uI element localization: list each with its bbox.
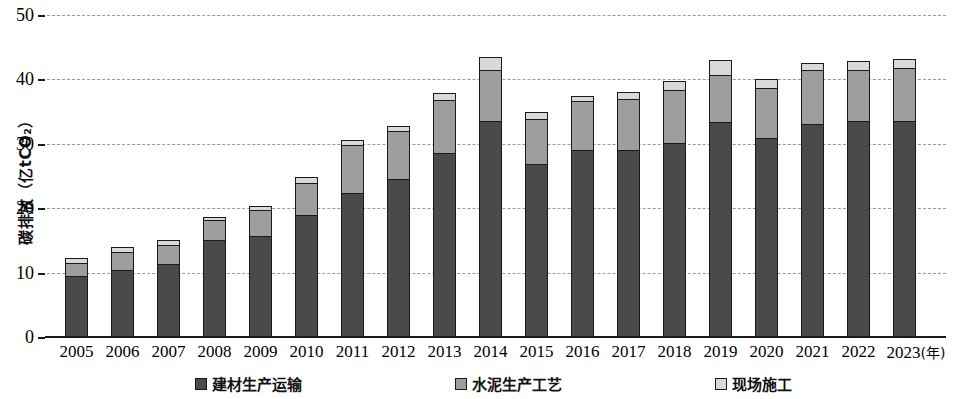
legend-item-2[interactable]: 水泥生产工艺 [455, 373, 562, 394]
bar-segment [249, 210, 272, 236]
bar-segment [341, 193, 364, 337]
bar-segment [801, 63, 824, 71]
y-tick-label: 30 [0, 135, 34, 153]
bar-segment [295, 215, 318, 337]
legend-swatch-icon [455, 378, 467, 390]
plot-area [47, 15, 946, 337]
bar-segment [755, 79, 778, 88]
stacked-bar-chart: 碳排放（亿tCO₂） 01020304050 20052006200720082… [0, 0, 960, 399]
bar-2022[interactable] [847, 61, 870, 337]
x-tick-label-2023: 2023(年) [887, 342, 943, 363]
bar-segment [479, 70, 502, 121]
bar-2015[interactable] [525, 112, 548, 337]
bar-segment [203, 240, 226, 337]
bar-2017[interactable] [617, 92, 640, 337]
bar-2023[interactable] [893, 59, 916, 337]
bar-segment [525, 119, 548, 164]
bar-segment [755, 88, 778, 138]
bar-segment [617, 99, 640, 151]
bar-segment [663, 81, 686, 89]
bar-segment [847, 70, 870, 122]
bar-segment [617, 150, 640, 337]
bar-segment [65, 263, 88, 276]
bar-segment [387, 179, 410, 337]
bar-2021[interactable] [801, 63, 824, 337]
bar-segment [801, 70, 824, 123]
legend-label: 建材生产运输 [212, 373, 302, 394]
bar-segment [65, 276, 88, 337]
bar-segment [433, 93, 456, 100]
bar-segment [663, 143, 686, 337]
bar-segment [479, 57, 502, 70]
bar-2013[interactable] [433, 93, 456, 337]
bar-segment [893, 121, 916, 337]
chart-legend: 建材生产运输水泥生产工艺现场施工 [0, 373, 960, 399]
bar-2006[interactable] [111, 247, 134, 337]
bar-segment [709, 122, 732, 337]
legend-swatch-icon [195, 378, 207, 390]
bar-segment [203, 220, 226, 240]
bar-segment [157, 264, 180, 337]
bar-2018[interactable] [663, 81, 686, 337]
bar-segment [755, 138, 778, 337]
bar-segment [433, 100, 456, 153]
bar-segment [295, 183, 318, 215]
y-tick-label: 20 [0, 199, 34, 217]
bar-segment [525, 164, 548, 337]
bar-segment [249, 236, 272, 337]
bar-2012[interactable] [387, 126, 410, 337]
bar-2016[interactable] [571, 96, 594, 337]
y-tick-label: 10 [0, 264, 34, 282]
bar-segment [157, 245, 180, 264]
x-tick-label-2022: 2022 [831, 342, 887, 362]
bar-segment [525, 112, 548, 119]
bar-segment [433, 153, 456, 337]
bar-segment [571, 150, 594, 337]
bar-2008[interactable] [203, 217, 226, 337]
bar-segment [479, 121, 502, 337]
bar-segment [847, 61, 870, 69]
bar-segment [387, 131, 410, 179]
legend-item-1[interactable]: 建材生产运输 [195, 373, 302, 394]
bar-segment [663, 90, 686, 143]
bar-segment [847, 121, 870, 337]
bar-segment [111, 270, 134, 337]
bar-2014[interactable] [479, 57, 502, 337]
bar-segment [893, 68, 916, 121]
bar-segment [111, 252, 134, 270]
y-tick-mark [38, 273, 45, 275]
y-tick-mark [38, 337, 45, 339]
bar-2010[interactable] [295, 177, 318, 337]
bar-segment [801, 124, 824, 337]
y-tick-mark [38, 208, 45, 210]
y-tick-mark [38, 144, 45, 146]
bar-segment [893, 59, 916, 67]
bar-2005[interactable] [65, 258, 88, 337]
legend-item-3[interactable]: 现场施工 [715, 373, 792, 394]
x-axis-line [45, 336, 946, 338]
y-tick-label: 40 [0, 70, 34, 88]
y-tick-mark [38, 79, 45, 81]
legend-label: 水泥生产工艺 [472, 373, 562, 394]
y-tick-mark [38, 15, 45, 17]
bar-segment [571, 101, 594, 150]
bar-segment [341, 145, 364, 193]
x-axis-labels: 2005200620072008200920102011201220132014… [0, 342, 960, 368]
bar-segment [709, 60, 732, 75]
bar-2011[interactable] [341, 140, 364, 337]
legend-swatch-icon [715, 378, 727, 390]
bar-2019[interactable] [709, 60, 732, 337]
y-tick-label: 50 [0, 6, 34, 24]
bar-2007[interactable] [157, 240, 180, 337]
bar-2009[interactable] [249, 206, 272, 337]
legend-label: 现场施工 [732, 373, 792, 394]
bar-2020[interactable] [755, 79, 778, 337]
gridline-50 [47, 15, 946, 16]
bar-segment [709, 75, 732, 122]
